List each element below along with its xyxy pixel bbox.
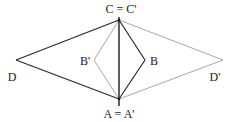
- edge-c-bprime: [94, 20, 119, 60]
- vertex-c-dot: [118, 19, 121, 22]
- label-bprime: B': [80, 54, 90, 68]
- edge-c-b: [119, 20, 145, 60]
- label-c: C = C': [106, 2, 137, 16]
- edge-dprime-a: [119, 60, 223, 99]
- vertex-a-dot: [118, 98, 121, 101]
- label-d: D: [8, 70, 17, 84]
- edge-bprime-a: [94, 60, 119, 99]
- edge-b-a: [119, 60, 145, 99]
- label-dprime: D': [210, 70, 221, 84]
- edge-d-a: [16, 60, 119, 99]
- label-b: B: [150, 54, 158, 68]
- label-a: A = A': [104, 107, 135, 121]
- edge-c-dprime: [119, 20, 223, 60]
- edge-c-d: [16, 20, 119, 60]
- reflection-diagram: C = C' A = A' D B B' D': [0, 0, 226, 122]
- reflected-shape: [94, 20, 223, 99]
